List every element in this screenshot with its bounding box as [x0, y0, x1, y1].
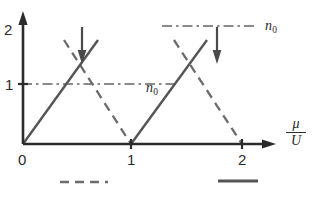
y-tick-label-2: 2 — [4, 22, 12, 37]
phase-diagram-figure: 2 1 0 1 2 μ U n0 n0 — [0, 0, 313, 199]
x-axis-arrowhead — [262, 139, 276, 148]
n0-lower-label: n0 — [146, 80, 158, 96]
y-tick-label-1: 1 — [5, 77, 13, 92]
down-arrow-lobe-2 — [213, 27, 222, 64]
x-axis-title: μ U — [286, 117, 306, 149]
n0-lower-subscript: 0 — [153, 87, 158, 97]
particle-branch-lobe-1-line — [23, 40, 98, 144]
particle-branch-lobe-2-line — [131, 40, 207, 144]
n0-lower-symbol: n — [146, 80, 153, 95]
n0-upper-symbol: n — [265, 18, 272, 33]
x-axis-denominator: U — [286, 134, 306, 149]
n0-upper-label: n0 — [265, 18, 277, 34]
x-tick-label-2: 2 — [238, 152, 246, 167]
x-tick-label-1: 1 — [127, 152, 135, 167]
x-axis-numerator: μ — [286, 117, 306, 132]
y-axis-arrowhead — [18, 11, 27, 25]
x-tick-label-0: 0 — [18, 152, 26, 167]
hole-branch-lobe-1-line — [64, 40, 131, 144]
n0-upper-subscript: 0 — [272, 25, 277, 35]
hole-branch-lobe-2-line — [174, 40, 242, 144]
